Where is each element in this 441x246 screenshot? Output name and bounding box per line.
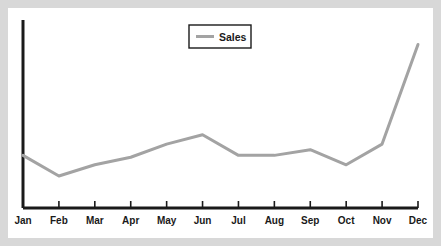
x-axis-tick-label: Jun — [194, 215, 212, 226]
data-series-group — [23, 44, 418, 176]
x-axis-tick-label: Nov — [373, 215, 392, 226]
x-axis-tick-label: Aug — [265, 215, 284, 226]
x-axis-tick-label: Jul — [231, 215, 246, 226]
chart-card: JanFebMarAprMayJunJulAugSepOctNovDec Sal… — [8, 8, 433, 238]
x-axis-tick-label: Jan — [14, 215, 31, 226]
x-axis-tick-label: Sep — [301, 215, 319, 226]
x-axis-tick-label: Feb — [50, 215, 68, 226]
chart-legend: Sales — [189, 25, 251, 48]
x-axis-tick-labels: JanFebMarAprMayJunJulAugSepOctNovDec — [14, 215, 427, 226]
x-axis-tick-label: Mar — [86, 215, 104, 226]
x-axis-tick-label: Dec — [409, 215, 428, 226]
x-axis-tick-label: May — [157, 215, 177, 226]
legend-label-sales: Sales — [219, 31, 247, 43]
sales-line-chart: JanFebMarAprMayJunJulAugSepOctNovDec Sal… — [8, 8, 433, 238]
series-line-sales — [23, 44, 418, 176]
x-axis-tick-label: Apr — [122, 215, 139, 226]
x-axis-tick-label: Oct — [338, 215, 355, 226]
